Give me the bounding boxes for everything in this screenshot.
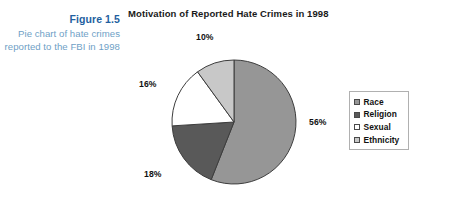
pie-value-label-sexual: 16%: [139, 79, 157, 89]
chart-title: Motivation of Reported Hate Crimes in 19…: [128, 8, 329, 19]
chart-legend: Race Religion Sexual Ethnicity: [349, 91, 409, 150]
pie-chart: [148, 40, 324, 212]
pie-value-label-race: 56%: [309, 117, 327, 127]
legend-swatch-icon: [354, 137, 360, 143]
pie-chart-svg: [148, 40, 324, 212]
figure-container: Figure 1.5 Pie chart of hate crimes repo…: [0, 0, 457, 215]
figure-number: Figure 1.5: [4, 12, 120, 26]
pie-value-label-ethnicity: 10%: [196, 32, 214, 42]
pie-slice-group: [172, 60, 296, 184]
legend-item-label: Sexual: [364, 123, 391, 132]
legend-item-ethnicity: Ethnicity: [354, 134, 408, 147]
figure-caption: Figure 1.5 Pie chart of hate crimes repo…: [4, 12, 120, 53]
pie-value-label-religion: 18%: [144, 169, 162, 179]
legend-item-label: Ethnicity: [364, 136, 400, 145]
legend-item-label: Religion: [364, 110, 397, 119]
legend-swatch-icon: [354, 99, 360, 105]
legend-item-religion: Religion: [354, 109, 408, 122]
legend-item-sexual: Sexual: [354, 121, 408, 134]
legend-swatch-icon: [354, 124, 360, 130]
legend-item-race: Race: [354, 96, 408, 109]
legend-swatch-icon: [354, 112, 360, 118]
figure-description: Pie chart of hate crimes reported to the…: [4, 27, 120, 53]
legend-item-label: Race: [364, 98, 384, 107]
